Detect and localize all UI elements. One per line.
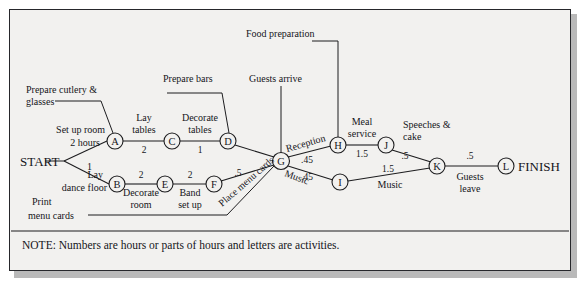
label-lay-dance-floor-line1: Lay (87, 169, 103, 180)
finish-label: FINISH (518, 159, 560, 174)
label-decorate-tables-line1: Decorate (182, 112, 219, 123)
node-b-letter: B (113, 179, 120, 190)
node-j[interactable]: J (378, 137, 394, 153)
label-music-g-i: Music (283, 168, 311, 187)
leader-food-preparation (312, 41, 338, 137)
label-print-menu-cards-line1: Print (32, 196, 52, 207)
label-guests-leave-line2: leave (459, 183, 481, 194)
label-lay-tables-line2: tables (132, 124, 155, 135)
label-place-menu-cards-duration: .5 (234, 168, 241, 178)
label-set-up-room-line2: 2 hours (70, 137, 100, 148)
label-place-menu-cards: Place menu cards (216, 154, 276, 208)
node-d[interactable]: D (220, 133, 236, 149)
note-text: NOTE: Numbers are hours or parts of hour… (22, 239, 340, 252)
label-reception: Reception (285, 132, 327, 154)
label-speeches-cake-duration: .5 (401, 151, 408, 161)
start-label: START (20, 154, 59, 169)
label-reception-duration: .45 (301, 155, 313, 165)
label-speeches-cake-line2: cake (403, 131, 422, 142)
node-f-letter: F (211, 179, 217, 190)
node-e-letter: E (162, 179, 168, 190)
node-h[interactable]: H (330, 137, 346, 153)
label-lay-tables-duration: 2 (142, 145, 147, 155)
node-e[interactable]: E (157, 176, 173, 192)
figure-page: A B C D E (0, 0, 585, 285)
activity-labels-group: Set up room 2 hours 1 Lay dance floor La… (56, 112, 484, 210)
label-lay-tables-line1: Lay (136, 112, 152, 123)
node-i[interactable]: I (332, 174, 348, 190)
label-decorate-room-line1: Decorate (123, 187, 160, 198)
diagram-canvas: A B C D E (0, 0, 585, 285)
label-guests-leave-line1: Guests (456, 171, 483, 182)
label-decorate-room-duration: 2 (139, 170, 144, 180)
node-h-letter: H (334, 140, 342, 151)
label-music-i-k: Music (378, 179, 404, 190)
edge-j-k (392, 150, 431, 162)
node-a[interactable]: A (107, 133, 123, 149)
node-i-letter: I (338, 177, 342, 188)
label-print-menu-cards-line2: menu cards (28, 210, 74, 221)
label-set-up-room-line1: Set up room (56, 124, 105, 135)
node-d-letter: D (224, 136, 232, 147)
label-lay-dance-floor-line2: dance floor (62, 182, 108, 193)
note-group: NOTE: Numbers are hours or parts of hour… (11, 231, 569, 252)
label-meal-service-duration: 1.5 (356, 149, 368, 159)
node-j-letter: J (384, 140, 388, 151)
label-prepare-bars: Prepare bars (163, 73, 213, 84)
label-food-preparation: Food preparation (246, 28, 315, 39)
node-k-letter: K (433, 161, 441, 172)
node-c[interactable]: C (164, 133, 180, 149)
label-decorate-room-line2: room (130, 199, 151, 210)
node-a-letter: A (111, 136, 119, 147)
label-meal-service-line2: service (348, 128, 377, 139)
label-decorate-tables-duration: 1 (198, 145, 203, 155)
node-f[interactable]: F (206, 176, 222, 192)
node-g-letter: G (277, 156, 285, 167)
node-k[interactable]: K (429, 158, 445, 174)
label-guests-arrive: Guests arrive (249, 73, 303, 84)
node-l[interactable]: L (498, 158, 514, 174)
label-meal-service-line1: Meal (352, 116, 373, 127)
activity-network-svg: A B C D E (0, 0, 585, 285)
label-band-set-up-line1: Band (179, 187, 200, 198)
node-c-letter: C (168, 136, 175, 147)
label-prepare-cutlery-line2: glasses (26, 96, 54, 107)
label-guests-leave-duration: .5 (466, 151, 473, 161)
label-band-set-up-line2: set up (178, 199, 202, 210)
label-music-i-k-duration: 1.5 (382, 164, 394, 174)
label-speeches-cake-line1: Speeches & (403, 119, 451, 130)
label-prepare-cutlery-line1: Prepare cutlery & (26, 84, 97, 95)
label-band-set-up-duration: 2 (188, 170, 193, 180)
node-l-letter: L (503, 161, 509, 172)
label-decorate-tables-line2: tables (188, 124, 211, 135)
